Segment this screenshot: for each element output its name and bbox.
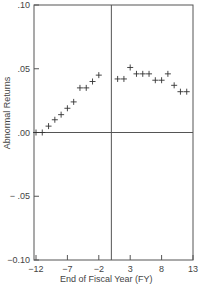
data-point-plus-icon	[159, 77, 165, 83]
data-point-plus-icon	[90, 79, 96, 85]
x-tick-label: −7	[62, 264, 72, 274]
data-point-plus-icon	[127, 64, 133, 70]
y-axis-label: Abnormal Returns	[2, 68, 12, 158]
data-point-plus-icon	[58, 112, 64, 118]
data-point-plus-icon	[140, 71, 146, 77]
data-point-plus-icon	[64, 105, 70, 111]
x-tick-label: 8	[159, 264, 164, 274]
data-point-plus-icon	[115, 76, 121, 82]
x-tick-label: −2	[94, 264, 104, 274]
data-point-plus-icon	[39, 130, 45, 136]
y-tick-label: .00	[17, 128, 30, 138]
data-point-plus-icon	[133, 71, 139, 77]
x-tick-label: −12	[28, 264, 43, 274]
x-tick-label: 3	[128, 264, 133, 274]
data-point-plus-icon	[121, 76, 127, 82]
x-axis-label: End of Fiscal Year (FY)	[60, 274, 153, 284]
data-point-plus-icon	[77, 85, 83, 91]
x-tick-label: 13	[188, 264, 198, 274]
data-point-plus-icon	[152, 77, 158, 83]
y-tick-label: .05	[17, 64, 30, 74]
data-point-plus-icon	[71, 99, 77, 105]
data-point-plus-icon	[184, 89, 190, 95]
data-point-plus-icon	[171, 82, 177, 88]
data-point-plus-icon	[96, 72, 102, 78]
data-point-plus-icon	[46, 123, 52, 129]
data-point-plus-icon	[146, 71, 152, 77]
y-tick-label: −0.10	[7, 255, 30, 265]
data-point-plus-icon	[177, 89, 183, 95]
y-tick-label: − .05	[10, 191, 30, 201]
data-point-plus-icon	[52, 117, 58, 123]
data-point-plus-icon	[165, 71, 171, 77]
data-point-plus-icon	[83, 85, 89, 91]
y-tick-label: .10	[17, 0, 30, 10]
